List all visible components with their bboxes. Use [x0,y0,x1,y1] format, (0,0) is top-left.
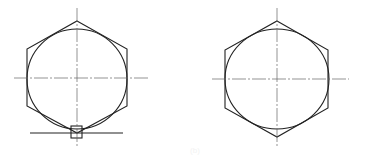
diagram-canvas [0,0,367,160]
left-square-marker [71,126,82,138]
figure-caption: (b) [150,146,240,155]
